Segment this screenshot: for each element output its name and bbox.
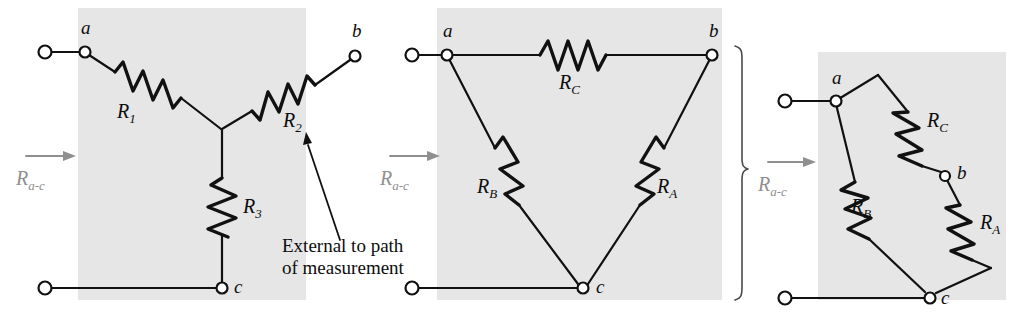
wye-node-a-label: a	[81, 18, 91, 37]
wye-wire-r2-b	[315, 60, 350, 85]
sp-wire-b-ra	[947, 180, 960, 205]
circuit-figure: a b c R1 R2 R3 Ra-c External to path of …	[0, 0, 1036, 327]
wye-measure-label: Ra-c	[16, 168, 45, 192]
annotation-line-2: of measurement	[282, 257, 404, 279]
callout-arrow	[303, 132, 340, 240]
wye-resistor-r3-zigzag	[208, 178, 236, 237]
sp-terminal-bottom	[779, 292, 792, 305]
sp-wire-a-rb	[836, 104, 855, 182]
sp-node-c-label: c	[941, 288, 949, 307]
wye-resistor-r2-label: R2	[283, 110, 302, 134]
wye-node-c	[217, 283, 228, 294]
sp-resistor-rc-zigzag	[893, 112, 922, 166]
delta-wire-ra-c	[588, 205, 640, 284]
sp-measure-arrow	[768, 157, 816, 167]
delta-resistor-rb-label: RB	[477, 176, 497, 200]
delta-measure-label: Ra-c	[380, 168, 409, 192]
sp-node-a	[831, 96, 842, 107]
sp-wire-ra-corner	[972, 260, 991, 268]
delta-node-a-label: a	[443, 21, 453, 40]
wye-terminal-top	[39, 46, 52, 59]
sp-resistor-ra-zigzag	[946, 205, 974, 260]
sp-resistor-rb-label: RB	[851, 196, 871, 220]
wye-wire-r1-center	[181, 98, 221, 129]
wye-wire-center-r2	[222, 111, 252, 129]
wye-terminal-bottom	[39, 282, 52, 295]
wye-node-b-label: b	[352, 21, 362, 40]
sp-node-b	[940, 171, 950, 181]
delta-wire-b-ra	[664, 57, 711, 148]
annotation-line-1: External to path	[282, 235, 404, 257]
sp-terminal-top	[779, 95, 792, 108]
sp-wire-corner-rc	[878, 75, 908, 112]
delta-resistor-rb-zigzag	[495, 137, 523, 205]
delta-resistor-rc-zigzag	[540, 41, 606, 70]
sp-node-a-label: a	[832, 68, 842, 87]
wye-node-a	[80, 47, 91, 58]
sp-wire-rc-b	[922, 166, 941, 172]
sp-resistor-ra-label: RA	[980, 212, 1000, 236]
delta-node-b	[707, 50, 718, 61]
delta-terminal-top	[406, 49, 419, 62]
delta-wire-rb-c	[519, 205, 578, 284]
wye-measure-arrow	[26, 151, 76, 161]
sp-resistor-rc-label: RC	[927, 110, 948, 134]
delta-resistor-rc-label: RC	[559, 72, 580, 96]
delta-node-c	[578, 283, 589, 294]
sp-measure-label: Ra-c	[758, 174, 787, 198]
delta-node-a	[442, 50, 453, 61]
sp-node-b-label: b	[957, 163, 967, 182]
delta-wire-a-rb	[448, 57, 495, 148]
wye-resistor-r1-label: R1	[117, 101, 136, 125]
wye-resistor-r3-label: R3	[243, 196, 262, 220]
sp-wire-rb-c	[869, 239, 925, 292]
delta-measure-arrow	[390, 151, 440, 161]
external-path-annotation: External to path of measurement	[282, 235, 404, 279]
wye-node-b	[350, 51, 361, 62]
delta-node-c-label: c	[596, 277, 604, 296]
sp-wire-a-corner	[837, 75, 878, 100]
grouping-brace	[735, 46, 748, 300]
delta-resistor-ra-label: RA	[657, 176, 677, 200]
delta-node-b-label: b	[709, 21, 719, 40]
sp-node-c	[925, 293, 936, 304]
delta-terminal-bottom	[406, 282, 419, 295]
circuit-lines-layer	[0, 0, 1036, 327]
wye-node-c-label: c	[234, 277, 242, 296]
